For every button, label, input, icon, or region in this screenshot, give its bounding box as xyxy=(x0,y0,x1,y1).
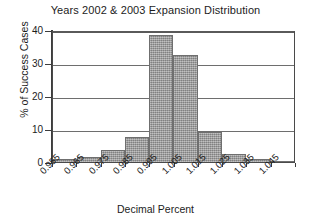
y-tick-30 xyxy=(45,64,52,65)
y-tick-label: 30 xyxy=(32,59,43,69)
y-tick-label: 40 xyxy=(32,26,43,36)
y-tick-10 xyxy=(45,130,52,131)
x-tick xyxy=(295,163,296,167)
bar-slot xyxy=(125,32,149,162)
y-tick-20 xyxy=(45,97,52,98)
bar[interactable] xyxy=(149,35,173,162)
bar[interactable] xyxy=(173,55,197,162)
bar-slot xyxy=(270,32,294,162)
chart-title: Years 2002 & 2003 Expansion Distribution xyxy=(0,4,311,17)
bar-slot xyxy=(53,32,77,162)
bar-slot xyxy=(198,32,222,162)
bar-series xyxy=(53,32,294,162)
bar-slot xyxy=(101,32,125,162)
bar-slot xyxy=(173,32,197,162)
chart-figure: Years 2002 & 2003 Expansion Distribution… xyxy=(0,0,311,222)
bar-slot xyxy=(246,32,270,162)
bar-slot xyxy=(222,32,246,162)
plot-area xyxy=(52,31,295,163)
bar-slot xyxy=(77,32,101,162)
y-tick-label: 10 xyxy=(32,125,43,135)
x-axis-title: Decimal Percent xyxy=(0,203,311,215)
y-tick-40 xyxy=(45,31,52,32)
y-axis-title: % of Success Cases xyxy=(19,0,30,142)
y-tick-label: 20 xyxy=(32,92,43,102)
x-tick-label: 0.955 xyxy=(38,152,62,176)
bar-slot xyxy=(149,32,173,162)
